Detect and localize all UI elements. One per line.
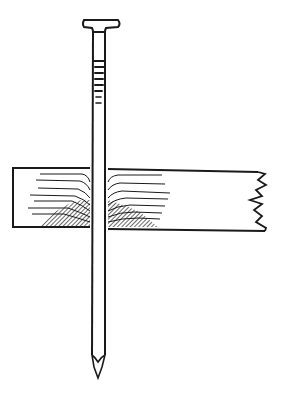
nail-through-board-drawing bbox=[0, 0, 282, 401]
wood-grain bbox=[28, 174, 170, 222]
nail-point bbox=[92, 355, 105, 378]
nail-head bbox=[83, 20, 120, 32]
nail-shank-left bbox=[92, 32, 93, 355]
broken-board-end bbox=[250, 172, 266, 231]
compressed-fibers bbox=[40, 200, 158, 227]
grip-rings bbox=[94, 61, 104, 103]
